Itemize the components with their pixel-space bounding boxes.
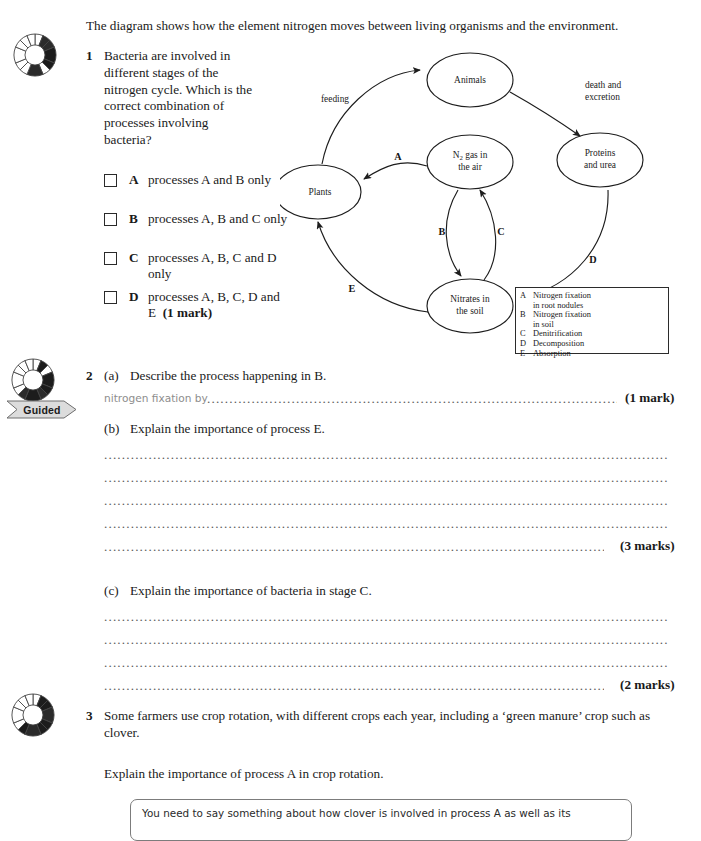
- answer-line[interactable]: ........................................…: [104, 493, 669, 507]
- option-c-text: processes A, B, C and D only: [148, 250, 298, 283]
- legend-value: Decomposition: [533, 339, 665, 349]
- legend-value-cont: in root nodules: [533, 301, 665, 311]
- progress-wheel-icon: [10, 692, 56, 738]
- answer-line[interactable]: ........................................…: [104, 470, 669, 484]
- question-2b-marks: (3 marks): [620, 538, 675, 554]
- legend-value: Absorption: [533, 349, 665, 359]
- legend-row: DDecomposition: [516, 339, 665, 349]
- option-a-checkbox[interactable]: [104, 174, 117, 187]
- answer-line[interactable]: ........................................…: [207, 391, 617, 405]
- question-2a-text: Describe the process happening in B.: [130, 368, 550, 384]
- legend-value: Nitrogen fixation: [533, 310, 665, 320]
- question-2c-marks: (2 marks): [620, 677, 675, 693]
- hint-box: You need to say something about how clov…: [130, 799, 632, 841]
- question-2c-text: Explain the importance of bacteria in st…: [130, 583, 550, 599]
- edge-d-label: D: [589, 254, 596, 265]
- legend-key: C: [516, 329, 533, 339]
- edge-c-label: C: [497, 226, 504, 237]
- question-2-number: 2: [86, 368, 93, 384]
- edge-a: [364, 163, 427, 179]
- question-2a-label: (a): [104, 368, 119, 384]
- svg-text:the soil: the soil: [456, 306, 484, 316]
- edge-feeding-label: feeding: [321, 94, 349, 104]
- svg-text:death and: death and: [585, 80, 621, 90]
- legend-value: Denitrification: [533, 329, 665, 339]
- edge-b-label: B: [439, 226, 446, 237]
- edge-feeding: [322, 70, 420, 164]
- edge-e: [318, 222, 428, 312]
- question-3-instruction: Explain the importance of process A in c…: [104, 766, 604, 783]
- edge-e-label: E: [349, 283, 356, 294]
- legend-row: in soil: [516, 320, 665, 330]
- edge-c: [480, 190, 496, 280]
- svg-text:N2 gas in: N2 gas in: [453, 150, 488, 161]
- edge-b: [446, 190, 461, 276]
- legend-row: EAbsorption: [516, 349, 665, 359]
- option-b-letter: B: [129, 211, 138, 227]
- answer-line[interactable]: ........................................…: [104, 655, 669, 669]
- node-plants-label: Plants: [309, 187, 332, 197]
- legend-row: CDenitrification: [516, 329, 665, 339]
- legend-value: Nitrogen fixation: [533, 291, 665, 301]
- legend-key: D: [516, 339, 533, 349]
- guided-badge: Guided: [6, 400, 78, 419]
- answer-line[interactable]: ........................................…: [104, 609, 669, 623]
- question-2b-text: Explain the importance of process E.: [130, 421, 550, 437]
- legend-row: in root nodules: [516, 301, 665, 311]
- legend-row: ANitrogen fixation: [516, 291, 665, 301]
- option-b-text: processes A, B and C only: [148, 211, 298, 227]
- question-3-text: Some farmers use crop rotation, with dif…: [104, 708, 674, 741]
- edge-death-excretion: [510, 92, 580, 136]
- progress-wheel-icon: [12, 32, 58, 78]
- diagram-legend: ANitrogen fixation in root nodules BNitr…: [515, 287, 669, 354]
- question-2a-marks: (1 mark): [625, 390, 674, 406]
- svg-text:Proteins: Proteins: [585, 148, 616, 158]
- answer-line[interactable]: ........................................…: [104, 632, 669, 646]
- question-1-number: 1: [86, 48, 93, 64]
- option-b-checkbox[interactable]: [104, 213, 117, 226]
- option-d-letter: D: [129, 289, 139, 305]
- question-2a-prefilled-answer: nitrogen fixation by: [104, 392, 208, 404]
- question-1-stem: Bacteria are involved in different stage…: [104, 48, 254, 149]
- hint-text: You need to say something about how clov…: [142, 807, 620, 820]
- legend-key: E: [516, 349, 533, 359]
- option-d-text: processes A, B, C, D and E (1 mark): [148, 289, 298, 322]
- answer-line[interactable]: ........................................…: [104, 539, 604, 553]
- progress-wheel-icon: [10, 357, 56, 403]
- legend-row: BNitrogen fixation: [516, 310, 665, 320]
- option-d-checkbox[interactable]: [104, 291, 117, 304]
- option-c-checkbox[interactable]: [104, 252, 117, 265]
- intro-text: The diagram shows how the element nitrog…: [86, 18, 686, 33]
- legend-key: A: [516, 291, 533, 301]
- option-c-letter: C: [129, 250, 139, 266]
- question-3-number: 3: [86, 708, 93, 724]
- answer-line[interactable]: ........................................…: [104, 516, 669, 530]
- option-a-text: processes A and B only: [148, 172, 298, 188]
- svg-text:the air: the air: [458, 162, 483, 172]
- answer-line[interactable]: ........................................…: [104, 678, 604, 692]
- edge-a-label: A: [394, 151, 402, 162]
- option-a-letter: A: [129, 172, 139, 188]
- question-2c-label: (c): [104, 583, 119, 599]
- option-d-marks: (1 mark): [163, 305, 212, 320]
- legend-key: B: [516, 310, 533, 320]
- edge-d: [522, 190, 608, 298]
- svg-text:and urea: and urea: [584, 160, 617, 170]
- svg-text:excretion: excretion: [585, 92, 620, 102]
- guided-badge-label: Guided: [6, 400, 78, 419]
- node-animals-label: Animals: [454, 75, 486, 85]
- svg-text:Nitrates in: Nitrates in: [450, 294, 490, 304]
- legend-value-cont: in soil: [533, 320, 665, 330]
- question-2b-label: (b): [104, 421, 119, 437]
- answer-line[interactable]: ........................................…: [104, 447, 669, 461]
